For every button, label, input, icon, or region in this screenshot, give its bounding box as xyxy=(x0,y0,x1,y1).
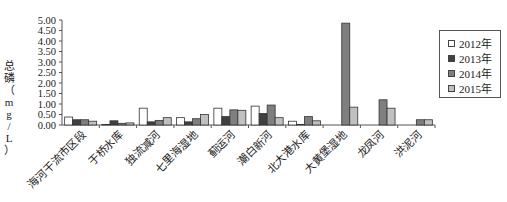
y-tick-label: 2.50 xyxy=(38,67,56,78)
bar xyxy=(177,118,185,125)
legend-label: 2014年 xyxy=(459,65,492,81)
bar xyxy=(304,117,312,125)
legend-item-2015: 2015年 xyxy=(448,82,492,94)
legend-label: 2013年 xyxy=(459,50,492,66)
bar xyxy=(118,123,126,125)
legend-swatch-2015 xyxy=(448,85,455,92)
bar xyxy=(342,23,350,125)
y-tick-label: 0.00 xyxy=(38,120,56,131)
bar-chart: 0.000.501.001.502.002.503.003.504.004.50… xyxy=(0,0,507,202)
bar xyxy=(222,117,230,125)
bar xyxy=(379,100,387,125)
legend: 2012年 2013年 2014年 2015年 xyxy=(439,30,501,98)
bar xyxy=(267,105,275,125)
legend-item-2013: 2013年 xyxy=(448,52,492,64)
bar xyxy=(73,120,81,125)
y-tick-label: 4.50 xyxy=(38,25,56,36)
x-tick-label: 于桥水库 xyxy=(86,128,126,168)
bar xyxy=(110,121,118,125)
legend-item-2012: 2012年 xyxy=(448,37,492,49)
legend-item-2014: 2014年 xyxy=(448,67,492,79)
bar xyxy=(193,119,201,125)
bar xyxy=(65,117,73,125)
legend-label: 2012年 xyxy=(459,35,492,51)
y-tick-label: 1.50 xyxy=(38,88,56,99)
bar xyxy=(147,122,155,125)
bar xyxy=(89,121,97,125)
bar xyxy=(296,124,304,125)
bar xyxy=(416,120,424,125)
x-tick-label: 龙凤河 xyxy=(355,128,388,161)
y-tick-label: 3.00 xyxy=(38,57,56,68)
bar xyxy=(424,120,432,125)
bar xyxy=(230,110,238,125)
bar xyxy=(201,115,209,126)
bar xyxy=(350,107,358,125)
bar xyxy=(139,108,147,125)
bar xyxy=(275,118,283,125)
legend-swatch-2014 xyxy=(448,70,455,77)
y-tick-label: 1.00 xyxy=(38,99,56,110)
x-tick-label: 蓟运河 xyxy=(205,128,238,161)
bar xyxy=(259,113,267,125)
y-tick-label: 0.50 xyxy=(38,109,56,120)
bar xyxy=(126,123,134,125)
bar xyxy=(288,121,296,125)
bar xyxy=(312,121,320,125)
y-tick-label: 4.00 xyxy=(38,36,56,47)
bar xyxy=(81,120,89,125)
y-tick-label: 3.50 xyxy=(38,46,56,57)
bar xyxy=(387,108,395,125)
legend-swatch-2012 xyxy=(448,40,455,47)
bar xyxy=(155,120,163,125)
legend-swatch-2013 xyxy=(448,55,455,62)
legend-label: 2015年 xyxy=(459,80,492,96)
bar xyxy=(214,108,222,125)
y-tick-label: 2.00 xyxy=(38,78,56,89)
bar xyxy=(163,118,171,125)
x-tick-label: 海河干流市区段 xyxy=(24,127,88,191)
x-tick-label: 洪泥河 xyxy=(391,127,424,160)
bar xyxy=(251,106,259,125)
y-axis-label: 总磷（mg/L） xyxy=(2,60,16,156)
bar xyxy=(238,110,246,125)
bar xyxy=(185,122,193,125)
y-tick-label: 5.00 xyxy=(38,15,56,26)
